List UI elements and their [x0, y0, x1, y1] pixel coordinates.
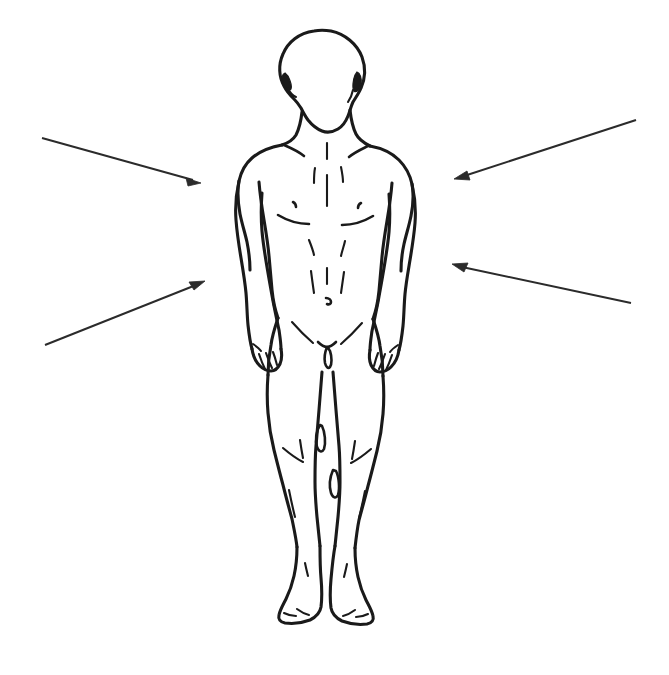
diagram-canvas [0, 0, 669, 675]
left-chest-shade [314, 168, 315, 183]
body-diagram-svg [0, 0, 669, 675]
diagram-background [0, 0, 669, 675]
